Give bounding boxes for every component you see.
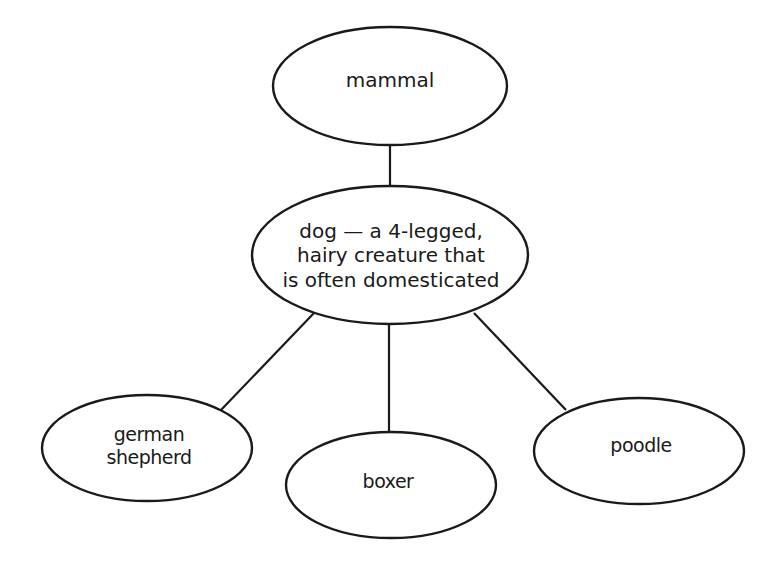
edge-dog-poodle	[474, 313, 566, 410]
node-german-shepherd-line-1: german	[107, 423, 192, 446]
node-dog-label: dog — a 4-legged, hairy creature that is…	[282, 219, 499, 292]
node-dog-line-3: is often domesticated	[282, 268, 499, 292]
node-poodle-label: poodle	[610, 434, 671, 457]
node-boxer-label: boxer	[363, 470, 414, 493]
node-dog-line-2: hairy creature that	[282, 244, 499, 268]
node-dog-line-1: dog — a 4-legged,	[282, 219, 499, 243]
node-german-shepherd-line-2: shepherd	[107, 446, 192, 469]
node-german-shepherd-label: german shepherd	[107, 423, 192, 469]
edge-dog-german-shepherd	[221, 313, 314, 410]
node-mammal-label: mammal	[346, 68, 435, 92]
